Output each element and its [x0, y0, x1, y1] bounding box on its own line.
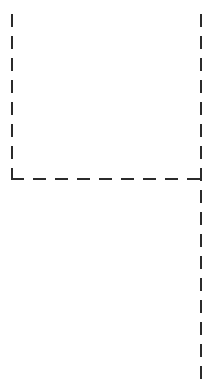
guide-lines-svg — [0, 0, 218, 389]
canvas-background — [0, 0, 218, 389]
dashed-guides-canvas — [0, 0, 218, 389]
